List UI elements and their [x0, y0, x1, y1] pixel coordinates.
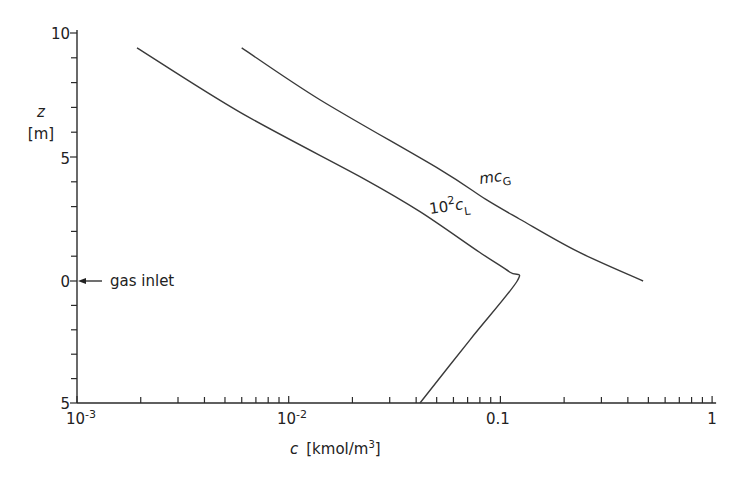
ticks	[70, 33, 712, 403]
y-tick-label-0: 0	[60, 273, 70, 291]
x-axis-title: c[kmol/m3]	[290, 439, 381, 458]
series-label-cg-sub: G	[502, 175, 512, 189]
y-tick-label-10: 10	[51, 25, 70, 43]
x-tick-label-1e-2: 10-2	[277, 408, 307, 428]
gas-inlet-arrow-head	[78, 278, 86, 284]
x-tick-label-0.1: 0.1	[486, 410, 510, 428]
x-axis-variable: c	[290, 440, 299, 458]
x-tick-label-base: 10	[277, 410, 296, 428]
series-label-cg: mcG	[478, 166, 512, 192]
x-tick-label-1e-3: 10-3	[66, 408, 96, 428]
y-axis-unit: [m]	[28, 125, 54, 143]
series-line-cl	[137, 48, 520, 403]
x-axis-unit: [kmol/m	[306, 440, 368, 458]
x-tick-label-exp: -3	[85, 408, 96, 421]
gas-inlet-label: gas inlet	[110, 272, 174, 290]
axes	[77, 30, 716, 403]
y-tick-label-5-top: 5	[60, 150, 70, 168]
x-axis-unit-end: ]	[375, 440, 381, 458]
chart: 10 5 0 5 z [m] 10-3 10-2 0.1 1 c[kmol/m3…	[0, 0, 742, 485]
x-tick-label-exp: -2	[296, 408, 307, 421]
x-tick-label-base: 10	[66, 410, 85, 428]
x-tick-label-1: 1	[707, 410, 717, 428]
series-label-cl: 102cL	[428, 191, 473, 223]
series-label-cl-base: 10	[428, 197, 449, 217]
curves	[137, 48, 643, 403]
y-axis-variable: z	[36, 103, 46, 121]
series-label-cg-var: mc	[478, 167, 504, 188]
series-label-cl-sub: L	[463, 204, 472, 218]
series-line-cg	[242, 48, 643, 281]
